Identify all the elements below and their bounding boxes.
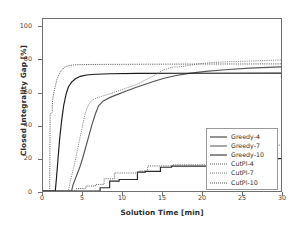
y-tick-mark-60 bbox=[38, 93, 42, 94]
x-tick-mark-25 bbox=[242, 192, 243, 196]
y-axis-label: Closed Integrality Gap [%] bbox=[19, 31, 28, 171]
legend-label: CutPl-7 bbox=[231, 169, 254, 177]
x-axis-tick-labels: 051015202530 bbox=[0, 195, 297, 205]
x-tick-label-0: 0 bbox=[31, 195, 53, 202]
x-tick-label-10: 10 bbox=[111, 195, 133, 202]
legend-swatch-greedy-4-icon bbox=[210, 133, 227, 140]
y-tick-mark-40 bbox=[38, 126, 42, 127]
x-tick-label-20: 20 bbox=[191, 195, 213, 202]
x-tick-label-15: 15 bbox=[151, 195, 173, 202]
legend-label: Greedy-7 bbox=[231, 142, 260, 150]
chart-legend: Greedy-4Greedy-7Greedy-10CutPl-4CutPl-7C… bbox=[206, 128, 278, 190]
legend-item-greedy-4[interactable]: Greedy-4 bbox=[210, 132, 274, 141]
legend-label: CutPl-10 bbox=[231, 179, 258, 187]
x-tick-mark-10 bbox=[122, 192, 123, 196]
legend-item-greedy-7[interactable]: Greedy-7 bbox=[210, 141, 274, 150]
legend-swatch-cutpl-4-icon bbox=[210, 161, 227, 168]
legend-swatch-cutpl-10-icon bbox=[210, 179, 227, 186]
x-tick-mark-5 bbox=[82, 192, 83, 196]
legend-item-greedy-10[interactable]: Greedy-10 bbox=[210, 150, 274, 159]
legend-label: CutPl-4 bbox=[231, 160, 254, 168]
legend-swatch-cutpl-7-icon bbox=[210, 170, 227, 177]
legend-label: Greedy-4 bbox=[231, 133, 260, 141]
legend-swatch-greedy-7-icon bbox=[210, 142, 227, 149]
legend-item-cutpl-10[interactable]: CutPl-10 bbox=[210, 178, 274, 187]
y-tick-mark-80 bbox=[38, 59, 42, 60]
x-tick-label-30: 30 bbox=[271, 195, 293, 202]
x-axis-label: Solution Time [min] bbox=[42, 208, 282, 217]
y-tick-mark-100 bbox=[38, 26, 42, 27]
y-tick-label-100: 100 bbox=[20, 23, 32, 30]
legend-swatch-greedy-10-icon bbox=[210, 151, 227, 158]
legend-item-cutpl-7[interactable]: CutPl-7 bbox=[210, 169, 274, 178]
legend-label: Greedy-10 bbox=[231, 151, 264, 159]
x-tick-mark-0 bbox=[42, 192, 43, 196]
chart-figure: 020406080100 051015202530 Solution Time … bbox=[0, 0, 297, 228]
x-tick-mark-20 bbox=[202, 192, 203, 196]
x-tick-label-5: 5 bbox=[71, 195, 93, 202]
legend-item-cutpl-4[interactable]: CutPl-4 bbox=[210, 160, 274, 169]
x-tick-mark-15 bbox=[162, 192, 163, 196]
x-tick-mark-30 bbox=[282, 192, 283, 196]
y-tick-mark-20 bbox=[38, 159, 42, 160]
x-tick-label-25: 25 bbox=[231, 195, 253, 202]
